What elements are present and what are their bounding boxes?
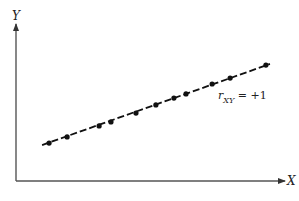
correlation-annotation: rXY = +1	[218, 89, 267, 105]
data-point	[171, 95, 176, 100]
y-axis-label: Y	[12, 9, 21, 23]
data-point	[133, 110, 138, 115]
points-layer	[46, 62, 268, 145]
data-point	[65, 134, 70, 139]
x-axis-label: X	[286, 174, 296, 188]
data-point	[228, 75, 233, 80]
data-point	[97, 123, 102, 128]
data-point	[183, 91, 188, 96]
data-point	[153, 102, 158, 107]
data-point	[210, 81, 215, 86]
data-point	[108, 119, 113, 124]
scatter-chart: Y X rXY = +1	[0, 0, 299, 201]
data-point	[263, 62, 268, 67]
data-point	[46, 140, 51, 145]
annotation-subscript: XY	[222, 96, 235, 105]
annotation-value: = +1	[234, 89, 266, 102]
